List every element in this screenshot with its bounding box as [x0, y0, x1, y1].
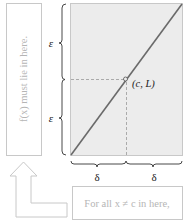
- epsilon-brace: [59, 4, 66, 155]
- point-c-L-hole: [124, 77, 128, 81]
- epsilon-delta-diagram: f(x) must lie in here. (c, L) ε ε δ δ Fo…: [0, 0, 187, 224]
- domain-box-text: For all x ≠ c in here,: [84, 198, 169, 209]
- delta-brace: [71, 161, 182, 167]
- point-label: (c, L): [132, 78, 155, 90]
- l-arrow-icon: [10, 162, 67, 217]
- epsilon-upper-label: ε: [49, 37, 54, 49]
- delta-right-label: δ: [151, 171, 156, 183]
- range-box-text: f(x) must lie in here.: [18, 36, 30, 122]
- delta-left-label: δ: [94, 171, 99, 183]
- epsilon-lower-label: ε: [49, 112, 54, 124]
